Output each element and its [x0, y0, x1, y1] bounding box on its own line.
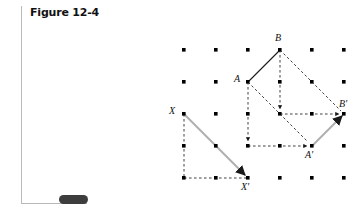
lattice-dot: [342, 48, 346, 52]
point-label-A-prime: A': [305, 149, 313, 160]
point-label-X-prime: X': [241, 181, 249, 192]
lattice-dot: [182, 48, 186, 52]
point-label-B: B: [275, 32, 281, 43]
guide-outline-group: [248, 50, 344, 146]
guide-a-to-ap-diagonal: [248, 82, 307, 141]
lattice-dot: [310, 176, 314, 180]
segment-a-b: [248, 50, 280, 82]
lattice-dot: [214, 112, 218, 116]
lattice-dot: [278, 112, 282, 116]
lattice-dot: [278, 176, 282, 180]
point-label-X: X: [169, 105, 175, 116]
point-label-A: A: [234, 73, 240, 84]
lattice-dot: [310, 80, 314, 84]
lattice-dot: [214, 176, 218, 180]
lattice-dot: [278, 80, 282, 84]
vector-ap-to-bp: [312, 116, 342, 146]
lattice-dot: [310, 144, 314, 148]
lattice-dot: [246, 80, 250, 84]
point-label-B-prime: B': [339, 98, 347, 109]
lattice-dot: [182, 144, 186, 148]
lattice-dot: [278, 144, 282, 148]
lattice-dot: [342, 144, 346, 148]
lattice-dot: [182, 112, 186, 116]
lattice-dot: [310, 112, 314, 116]
lattice-dot: [246, 112, 250, 116]
lattice-dot: [246, 144, 250, 148]
lattice-dot: [214, 144, 218, 148]
lattice-dot: [214, 48, 218, 52]
lattice-dot: [342, 80, 346, 84]
translation-vectors-group: [184, 114, 342, 175]
lattice-dot: [310, 48, 314, 52]
lattice-dot: [246, 48, 250, 52]
lattice-dot: [214, 80, 218, 84]
figure-page: Figure 12-4: [0, 0, 364, 215]
lattice-dot: [342, 176, 346, 180]
lattice-dot: [278, 48, 282, 52]
lattice-dot: [182, 80, 186, 84]
lattice-dot: [342, 112, 346, 116]
lattice-dot: [246, 176, 250, 180]
lattice-dot: [182, 176, 186, 180]
diagram-canvas: [0, 0, 364, 215]
